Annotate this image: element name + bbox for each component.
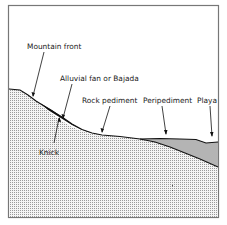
label-rock-pediment: Rock pediment	[82, 96, 137, 105]
bedrock-speck	[172, 190, 173, 191]
label-alluvial-fan: Alluvial fan or Bajada	[60, 74, 139, 83]
label-peripediment: Peripediment	[143, 96, 192, 105]
label-playa: Playa	[197, 96, 217, 105]
bedrock-speck	[172, 185, 173, 187]
pediment-profile-diagram: Mountain front Alluvial fan or Bajada Ro…	[0, 0, 227, 225]
label-knick: Knick	[39, 148, 60, 157]
label-mountain-front: Mountain front	[27, 42, 81, 51]
